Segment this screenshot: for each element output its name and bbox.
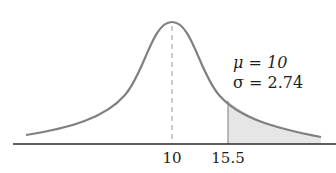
tick-label-mean: 10 — [162, 149, 181, 167]
shaded-tail-region — [228, 101, 321, 144]
tick-label-cutoff: 15.5 — [211, 149, 244, 167]
mu-annotation: μ = 10 — [233, 53, 287, 72]
sigma-annotation: σ = 2.74 — [233, 73, 303, 92]
normal-distribution-chart: 10 15.5 μ = 10 σ = 2.74 — [0, 0, 336, 173]
